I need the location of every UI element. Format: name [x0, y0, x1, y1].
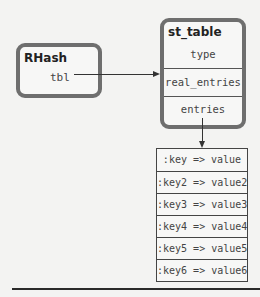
entries-pointer-arrowhead-icon	[199, 141, 205, 148]
st-table-title: st_table	[168, 25, 222, 39]
st-table-divider	[164, 68, 242, 69]
entries-pointer-line	[202, 118, 203, 142]
st-table-field-type: type	[164, 48, 242, 60]
entry-row: :key => value	[157, 149, 247, 171]
tbl-pointer-arrowhead-icon	[153, 71, 160, 77]
entry-row: :key3 => value3	[157, 193, 247, 215]
st-table-struct-box: st_table type real_entries entries	[160, 18, 246, 129]
st-table-field-real-entries: real_entries	[164, 76, 242, 88]
rhash-title: RHash	[24, 51, 67, 65]
st-table-divider	[164, 96, 242, 97]
st-table-field-entries: entries	[164, 103, 242, 115]
entries-table: :key => value :key2 => value2 :key3 => v…	[156, 148, 248, 282]
tbl-pointer-line	[74, 74, 154, 75]
bottom-rule-divider	[12, 288, 260, 290]
entry-row: :key5 => value5	[157, 237, 247, 259]
entry-row: :key2 => value2	[157, 171, 247, 193]
entry-row: :key4 => value4	[157, 215, 247, 237]
rhash-field-tbl: tbl	[50, 71, 70, 84]
rhash-struct-box: RHash tbl	[16, 43, 102, 98]
entry-row: :key6 => value6	[157, 259, 247, 281]
